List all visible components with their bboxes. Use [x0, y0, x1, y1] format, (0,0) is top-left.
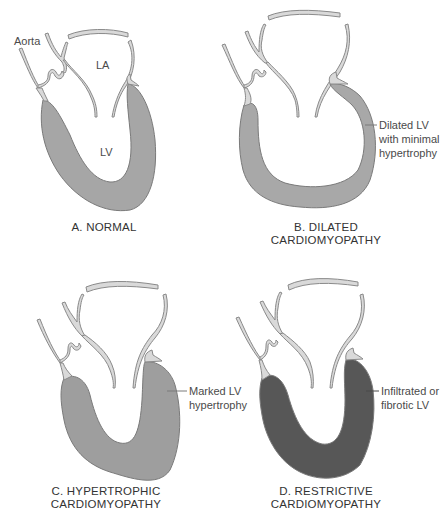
aortic-valve-cusp [38, 69, 64, 88]
lv-base-left [60, 363, 72, 380]
septum-upper [82, 335, 115, 388]
atrial-roof [268, 10, 340, 20]
aorta-wall [236, 317, 262, 360]
aortic-valve-cusp [260, 340, 278, 360]
atrial-roof [86, 281, 158, 292]
aorta-inner-wall [260, 292, 283, 334]
aorta-wall [37, 319, 62, 363]
aortic-valve-cusp [244, 69, 266, 88]
panel-d-restrictive: Infiltrated or fibrotic LV D. RESTRICTIV… [236, 279, 439, 510]
lv-base-right [346, 348, 363, 360]
septum-upper [63, 60, 97, 117]
aortic-valve-cusp [60, 343, 81, 363]
lv-base-left [244, 88, 251, 106]
panel-c-hypertrophic: Marked LV hypertrophy C. HYPERTROPHIC CA… [37, 281, 248, 510]
panel-d-caption-2: CARDIOMYOPATHY [271, 498, 381, 510]
annotation-line-2: fibrotic LV [381, 399, 430, 411]
mitral-leaflet [315, 24, 350, 117]
lv-wall [61, 362, 180, 481]
annotation-line-1: Infiltrated or [381, 385, 439, 397]
panel-c-caption-1: C. HYPERTROPHIC [52, 485, 161, 497]
panel-a-normal: Aorta LA LV A. NORMAL [14, 29, 156, 233]
lv-wall [41, 84, 155, 211]
panel-b-caption-2: CARDIOMYOPATHY [271, 234, 381, 246]
panel-d-caption-1: D. RESTRICTIVE [279, 485, 373, 497]
aorta-inner-wall [62, 294, 85, 336]
aorta-label: Aorta [14, 35, 41, 47]
aorta-inner-wall [45, 33, 68, 73]
lv-wall [239, 84, 375, 208]
panel-b-dilated: Dilated LV with minimal hypertrophy B. D… [222, 10, 440, 246]
atrial-roof [68, 29, 128, 39]
annotation-line-2: with minimal [378, 133, 440, 145]
annotation-line-3: hypertrophy [379, 147, 438, 159]
lv-base-right [145, 350, 162, 362]
lv-base-left [36, 88, 48, 101]
annotation-line-2: hypertrophy [189, 399, 248, 411]
cardiomyopathy-diagram: Aorta LA LV A. NORMAL Dilated LV with mi… [0, 0, 444, 524]
panel-a-caption: A. NORMAL [71, 221, 136, 233]
septum-upper [266, 62, 299, 117]
annotation-line-1: Dilated LV [379, 119, 430, 131]
panel-b-caption-1: B. DILATED [294, 221, 358, 233]
aorta-inner-wall [245, 24, 268, 63]
lv-wall [260, 359, 374, 478]
atrial-roof [288, 279, 358, 290]
aorta-wall [222, 44, 246, 88]
lv-label: LV [100, 146, 113, 158]
panel-c-caption-2: CARDIOMYOPATHY [51, 498, 161, 510]
lv-base-right [127, 74, 139, 86]
annotation-line-1: Marked LV [189, 385, 242, 397]
la-label: LA [96, 59, 110, 71]
aorta-wall [19, 48, 40, 88]
septum-upper [280, 333, 313, 388]
